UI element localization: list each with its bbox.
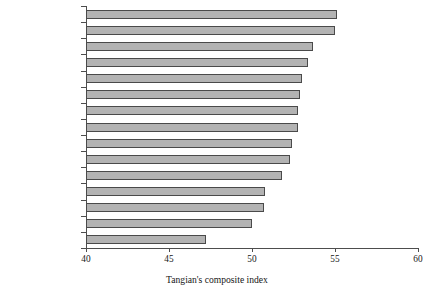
y-axis-tick — [81, 103, 86, 104]
y-axis-tick — [81, 22, 86, 23]
y-axis-tick — [81, 87, 86, 88]
bar — [86, 42, 313, 51]
bar — [86, 106, 298, 115]
bar-chart: NetherlandsDenmarkAustriaSwedenGermanyIr… — [0, 0, 434, 298]
y-axis-tick — [81, 38, 86, 39]
y-axis-tick — [81, 167, 86, 168]
y-axis-tick — [81, 135, 86, 136]
x-axis-tick-label: 60 — [398, 254, 434, 265]
bar — [86, 187, 265, 196]
y-axis-tick — [81, 119, 86, 120]
bar — [86, 155, 290, 164]
x-axis-tick — [169, 248, 170, 252]
x-axis-tick-label: 40 — [66, 254, 106, 265]
x-axis-tick-label: 50 — [232, 254, 272, 265]
bar — [86, 219, 252, 228]
y-axis-tick — [81, 151, 86, 152]
y-axis-tick — [81, 71, 86, 72]
bar — [86, 90, 300, 99]
bar — [86, 203, 264, 212]
bar — [86, 26, 335, 35]
x-axis-tick — [252, 248, 253, 252]
x-axis-tick — [335, 248, 336, 252]
x-axis-tick-label: 55 — [315, 254, 355, 265]
bar — [86, 235, 206, 244]
bar — [86, 123, 298, 132]
y-axis-tick — [81, 200, 86, 201]
y-axis-tick — [81, 6, 86, 7]
x-axis-tick-label: 45 — [149, 254, 189, 265]
bar — [86, 58, 308, 67]
x-axis-tick — [86, 248, 87, 252]
bar — [86, 171, 282, 180]
y-axis-tick — [81, 183, 86, 184]
bar — [86, 10, 337, 19]
bar — [86, 74, 302, 83]
y-axis-tick — [81, 232, 86, 233]
y-axis-tick — [81, 54, 86, 55]
plot-area — [86, 6, 418, 248]
y-axis-tick — [81, 216, 86, 217]
x-axis-tick — [418, 248, 419, 252]
x-axis-title: Tangian's composite index — [0, 274, 434, 285]
bar — [86, 139, 292, 148]
